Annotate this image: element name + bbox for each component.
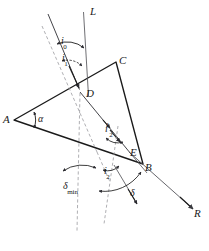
angle-i1-subscript: 1 [64, 60, 68, 68]
angle-i0-subscript: 0 [63, 43, 67, 51]
label-vertex-b: B [145, 162, 152, 173]
angle-arc-alpha [34, 112, 36, 128]
angle-arc-delta-min [63, 165, 96, 171]
label-angle-i2: i2 [104, 166, 110, 179]
label-ray-out-r: R [194, 208, 201, 219]
label-angle-delta-min: δmin [63, 181, 79, 194]
label-normal-line-L: L [90, 6, 96, 17]
angle-i2-subscript: 2 [106, 173, 110, 181]
incident-direction-arrow [69, 66, 79, 88]
label-vertex-a: A [3, 114, 10, 125]
label-angle-alpha: α [38, 114, 43, 124]
prism-refraction-diagram: L A B C D E R α i0 i1 i′2 i2 δmin δ [0, 0, 209, 251]
angle-i2p-subscript: 2 [109, 131, 113, 139]
vertical-reference-dashed [77, 93, 80, 231]
label-angle-i1: i1 [62, 53, 68, 66]
label-point-d: D [86, 88, 94, 99]
label-vertex-c: C [119, 55, 126, 66]
label-angle-delta: δ [130, 188, 135, 198]
internal-ray-DE [80, 92, 147, 173]
incident-ray-extension-dashed [42, 26, 110, 182]
label-point-e: E [130, 147, 137, 158]
angle-i2p-prime-mark: ′ [107, 121, 109, 131]
label-angle-i2-prime: i′2 [105, 124, 113, 137]
label-angle-i0: i0 [61, 36, 67, 49]
normal-line-L [84, 12, 89, 96]
prism-outline [14, 62, 143, 164]
emergent-ray-R [129, 152, 193, 209]
delta-min-subscript: min [67, 188, 78, 196]
deviation-ray-down [114, 165, 137, 204]
